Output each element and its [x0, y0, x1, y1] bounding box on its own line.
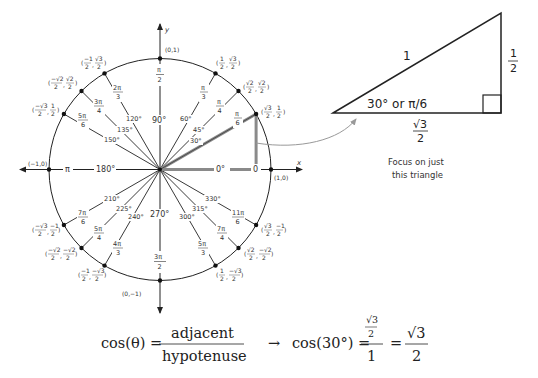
- svg-text:3: 3: [116, 93, 120, 101]
- svg-text:(: (: [32, 106, 34, 113]
- svg-text:2: 2: [231, 63, 235, 70]
- svg-text:270°: 270°: [150, 210, 169, 219]
- svg-text:2: 2: [66, 254, 70, 261]
- svg-text:): ): [283, 108, 285, 115]
- svg-text:π: π: [65, 165, 70, 174]
- eq-def-den: hypotenuse: [162, 348, 247, 364]
- svg-text:√2: √2: [66, 75, 74, 82]
- focus-triangle: 1 1 2 30° or π/6 √3 2 Focus on just this…: [333, 13, 518, 180]
- eq-arrow: →: [268, 335, 280, 351]
- svg-text:11π: 11π: [232, 209, 244, 217]
- y-axis-label: y: [164, 26, 170, 34]
- svg-text:2: 2: [38, 230, 42, 237]
- unit-circle-diagram: x y (0,1) (0,−1) (−1,0) (1,0) 0° 0 90° π…: [0, 0, 538, 378]
- svg-text:(: (: [261, 108, 263, 115]
- hypotenuse-label: 1: [403, 49, 411, 63]
- svg-text:4: 4: [97, 234, 101, 242]
- svg-text:−√2: −√2: [48, 246, 61, 253]
- svg-text:(: (: [261, 226, 263, 233]
- eq-inner-den: 2: [368, 328, 374, 339]
- eq-def-num: adjacent: [171, 325, 234, 341]
- svg-text:2: 2: [277, 230, 281, 237]
- svg-text:2: 2: [260, 87, 264, 94]
- svg-text:2: 2: [249, 254, 253, 261]
- svg-text:−√3: −√3: [92, 267, 105, 274]
- svg-text:(: (: [32, 226, 34, 233]
- svg-text:240°: 240°: [128, 213, 144, 221]
- svg-text:√2: √2: [247, 246, 255, 253]
- svg-text:−√3: −√3: [35, 222, 48, 229]
- eq-result-den: 2: [412, 348, 421, 364]
- svg-text:330°: 330°: [205, 195, 221, 203]
- svg-text:,: ,: [255, 85, 257, 92]
- svg-text:3π: 3π: [154, 253, 162, 261]
- connector-arrow: [256, 119, 356, 145]
- svg-text:45°: 45°: [193, 126, 205, 134]
- svg-text:,: ,: [273, 228, 275, 235]
- svg-text:150°: 150°: [104, 136, 120, 144]
- svg-text:2: 2: [68, 83, 72, 90]
- svg-text:225°: 225°: [116, 205, 132, 213]
- svg-text:): ): [57, 106, 59, 113]
- svg-text:6: 6: [81, 218, 85, 226]
- svg-text:(: (: [216, 59, 218, 66]
- svg-text:(: (: [45, 250, 47, 257]
- svg-text:2: 2: [277, 112, 281, 119]
- svg-text:1: 1: [277, 104, 281, 111]
- svg-text:2: 2: [54, 83, 58, 90]
- svg-text:√2: √2: [246, 79, 254, 86]
- adjacent-den: 2: [417, 132, 424, 145]
- svg-text:,: ,: [47, 108, 49, 115]
- svg-text:π: π: [235, 110, 239, 118]
- svg-text:√3: √3: [264, 104, 272, 111]
- svg-text:180°: 180°: [96, 165, 115, 174]
- svg-text:3: 3: [202, 93, 206, 101]
- svg-text:,: ,: [273, 110, 275, 117]
- adjacent-num: √3: [413, 118, 427, 131]
- svg-text:−√3: −√3: [35, 102, 48, 109]
- svg-text:2: 2: [220, 275, 224, 282]
- svg-text:4: 4: [220, 234, 224, 242]
- svg-text:7π: 7π: [78, 209, 86, 217]
- svg-text:π: π: [157, 66, 161, 74]
- svg-text:,: ,: [226, 273, 228, 280]
- svg-text:1: 1: [220, 267, 224, 274]
- svg-text:,: ,: [92, 61, 94, 68]
- svg-text:300°: 300°: [179, 213, 195, 221]
- svg-text:): ): [267, 83, 269, 90]
- svg-text:−√2: −√2: [51, 75, 64, 82]
- svg-text:,: ,: [63, 81, 65, 88]
- svg-text:): ): [58, 226, 60, 233]
- svg-text:2: 2: [51, 110, 55, 117]
- eq-lhs: cos(θ) =: [101, 335, 162, 351]
- cosine-equation: cos(θ) = adjacent hypotenuse → cos(30°) …: [101, 314, 428, 364]
- svg-text:120°: 120°: [126, 115, 142, 123]
- svg-text:(: (: [216, 271, 218, 278]
- svg-text:(: (: [78, 271, 80, 278]
- svg-text:4: 4: [218, 107, 222, 115]
- svg-text:(: (: [48, 79, 50, 86]
- svg-text:0: 0: [253, 165, 258, 174]
- eq-apply: cos(30°) =: [292, 335, 370, 351]
- svg-text:): ): [271, 250, 273, 257]
- svg-text:,: ,: [256, 252, 258, 259]
- svg-text:6: 6: [236, 218, 240, 226]
- svg-text:): ): [238, 59, 240, 66]
- svg-text:5π: 5π: [78, 112, 86, 120]
- svg-text:0°: 0°: [216, 165, 225, 174]
- opposite-num: 1: [510, 47, 517, 60]
- svg-text:4π: 4π: [113, 240, 121, 248]
- svg-text:−√2: −√2: [63, 246, 76, 253]
- svg-text:−√2: −√2: [259, 246, 272, 253]
- svg-text:(: (: [244, 250, 246, 257]
- svg-text:(: (: [243, 83, 245, 90]
- svg-text:6: 6: [236, 119, 240, 127]
- eq-outer-den: 1: [367, 348, 376, 364]
- svg-text:,: ,: [47, 228, 49, 235]
- svg-text:): ): [75, 79, 77, 86]
- eq-inner-num: √3: [366, 314, 378, 325]
- opposite-den: 2: [510, 62, 517, 75]
- svg-text:3: 3: [201, 249, 205, 257]
- svg-text:2: 2: [38, 110, 42, 117]
- caption-line1: Focus on just: [388, 157, 444, 167]
